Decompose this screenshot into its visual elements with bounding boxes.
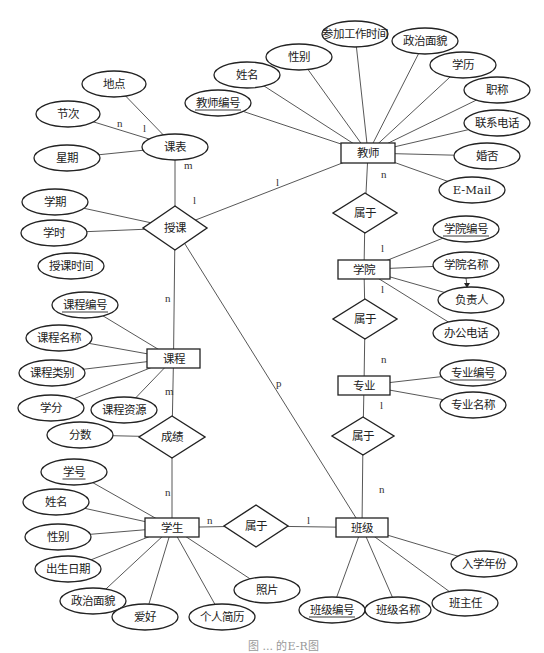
entity-label: 学院 [353,263,376,277]
relationship-belong1[interactable]: 属于 [333,193,397,233]
attribute-29[interactable]: 办公电话 [433,320,499,346]
attribute-31[interactable]: 教师编号 [185,90,251,116]
attribute-label: 班主任 [449,596,483,610]
entity-college[interactable]: 学院 [338,260,390,279]
attribute-label: 课程名称 [37,331,82,345]
attribute-label: 职称 [486,83,509,97]
connector-line [368,41,425,153]
cardinality-label: l [381,283,384,295]
relationship-grade[interactable]: 成绩 [139,416,205,458]
attribute-label: 姓名 [45,495,67,509]
attribute-9[interactable]: 学分 [18,395,84,421]
entity-student[interactable]: 学生 [145,518,199,537]
nodes: 地点节次星期学期学时授课时间课程编号课程名称课程类别学分课程资源分数学号姓名性别… [18,21,530,630]
entity-teacher[interactable]: 教师 [341,143,395,163]
attribute-label: 课程编号 [63,298,107,312]
entity-timetable[interactable]: 课表 [142,134,208,160]
attribute-13[interactable]: 姓名 [23,489,89,515]
attribute-14[interactable]: 性别 [25,524,91,550]
entity-major[interactable]: 专业 [338,376,390,395]
attribute-label: 学号 [63,465,85,479]
attribute-4[interactable]: 学时 [21,220,87,246]
attribute-7[interactable]: 课程名称 [26,325,92,351]
cardinality-label: n [379,483,385,495]
entity-course[interactable]: 课程 [147,349,200,368]
attribute-label: 联系电话 [475,116,520,130]
attribute-3[interactable]: 学期 [22,189,88,215]
attribute-1[interactable]: 节次 [36,101,100,127]
attribute-label: 政治面貌 [71,594,116,608]
cardinality-label: n [165,292,171,304]
cardinality-label: n [381,168,387,180]
attribute-28[interactable]: 负责人 [438,287,504,313]
attribute-19[interactable]: 照片 [234,577,300,603]
attribute-6[interactable]: 课程编号 [52,292,118,318]
attribute-label: 负责人 [455,293,489,307]
attribute-35[interactable]: 学历 [430,52,496,78]
attribute-27[interactable]: 学院名称 [433,252,499,278]
cardinality-label: p [276,377,282,389]
attribute-5[interactable]: 授课时间 [38,253,104,279]
attribute-label: 学院编号 [444,222,488,236]
cardinality-label: l [307,514,310,526]
attribute-32[interactable]: 性别 [266,44,332,70]
connector-line [247,75,368,153]
connector-line [355,34,368,153]
attribute-label: 课程资源 [102,403,147,417]
attribute-15[interactable]: 出生日期 [35,556,101,582]
attribute-label: 性别 [47,530,69,544]
attribute-21[interactable]: 班级名称 [365,597,431,623]
relationship-label: 属于 [354,206,376,220]
attribute-26[interactable]: 学院编号 [433,216,499,242]
attribute-33[interactable]: 参加工作时间 [322,21,388,47]
attribute-30[interactable]: 姓名 [214,62,280,88]
relationship-label: 成绩 [161,430,184,444]
attribute-8[interactable]: 课程类别 [19,360,85,386]
attribute-label: 学期 [44,195,66,209]
attribute-label: 参加工作时间 [322,27,388,41]
connector-line [175,228,362,528]
attribute-22[interactable]: 班主任 [432,590,498,616]
attribute-label: 学时 [43,226,66,240]
attribute-label: 姓名 [236,68,258,82]
attribute-label: 星期 [56,151,78,165]
attribute-11[interactable]: 分数 [47,422,113,448]
cardinality-label: l [380,399,383,411]
attribute-37[interactable]: 联系电话 [464,110,530,136]
attribute-20[interactable]: 班级编号 [299,597,365,623]
entity-label: 专业 [353,379,375,393]
attribute-label: 学分 [40,401,63,415]
attribute-24[interactable]: 专业编号 [440,360,506,386]
attribute-38[interactable]: 婚否 [454,143,520,169]
relationship-belong3[interactable]: 属于 [332,417,394,455]
attribute-36[interactable]: 职称 [464,77,530,103]
attribute-39[interactable]: E-Mail [439,177,505,203]
attribute-10[interactable]: 课程资源 [91,397,157,423]
attribute-label: 个人简历 [200,610,244,624]
attribute-17[interactable]: 爱好 [112,604,178,630]
relationship-label: 授课 [164,221,187,235]
attribute-label: 学院名称 [444,258,489,272]
entity-label: 课程 [163,352,186,366]
entity-label: 班级 [351,521,374,535]
attribute-25[interactable]: 专业名称 [440,392,506,418]
attribute-label: 专业编号 [451,366,495,380]
relationship-belong2[interactable]: 属于 [333,299,397,339]
relationship-teach[interactable]: 授课 [143,206,207,250]
relationship-label: 属于 [245,519,267,533]
attribute-label: 授课时间 [49,259,93,273]
attribute-18[interactable]: 个人简历 [189,604,255,630]
attribute-label: 专业名称 [451,398,496,412]
cardinality-label: n [207,514,213,526]
attribute-23[interactable]: 入学年份 [451,551,517,577]
connector-line [299,57,368,153]
attribute-label: 办公电话 [444,326,489,340]
attribute-0[interactable]: 地点 [82,71,146,97]
cardinality-label: l [143,122,146,134]
cardinality-label: l [381,242,384,254]
attribute-34[interactable]: 政治面貌 [392,28,458,54]
attribute-2[interactable]: 星期 [34,145,100,171]
attribute-12[interactable]: 学号 [41,459,107,485]
entity-class[interactable]: 班级 [336,518,388,537]
relationship-belong4[interactable]: 属于 [224,505,288,547]
